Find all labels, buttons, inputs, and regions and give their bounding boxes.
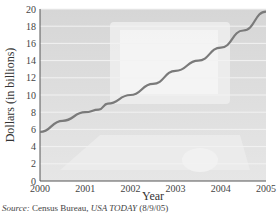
y-tick-label: 6 <box>31 124 36 135</box>
x-tick-label: 2001 <box>75 183 95 194</box>
x-tick-label: 2002 <box>120 183 140 194</box>
x-tick-label: 2004 <box>211 183 231 194</box>
y-tick-label: 2 <box>31 158 36 169</box>
y-tick-label: 10 <box>26 90 36 101</box>
source-publication: USA TODAY <box>91 203 137 213</box>
source-label: Source: <box>2 203 30 213</box>
y-tick-labels: 02468101214161820 <box>26 4 36 187</box>
y-tick-label: 16 <box>26 38 36 49</box>
line-chart: 02468101214161820 2000200120022003200420… <box>0 0 280 218</box>
x-axis-label: Year <box>142 189 164 203</box>
y-tick-label: 12 <box>26 72 36 83</box>
y-tick-label: 18 <box>26 21 36 32</box>
y-tick-label: 20 <box>26 4 36 15</box>
y-tick-label: 4 <box>31 141 36 152</box>
x-tick-label: 2005 <box>256 183 276 194</box>
x-tick-label: 2003 <box>166 183 186 194</box>
x-tick-label: 2000 <box>30 183 50 194</box>
y-axis-label: Dollars (in billions) <box>3 48 17 143</box>
source-note: Source: Census Bureau, USA TODAY (8/9/05… <box>2 203 168 213</box>
source-date: (8/9/05) <box>137 203 168 213</box>
y-tick-label: 14 <box>26 55 36 66</box>
source-text: Census Bureau, <box>30 203 91 213</box>
y-tick-label: 8 <box>31 107 36 118</box>
